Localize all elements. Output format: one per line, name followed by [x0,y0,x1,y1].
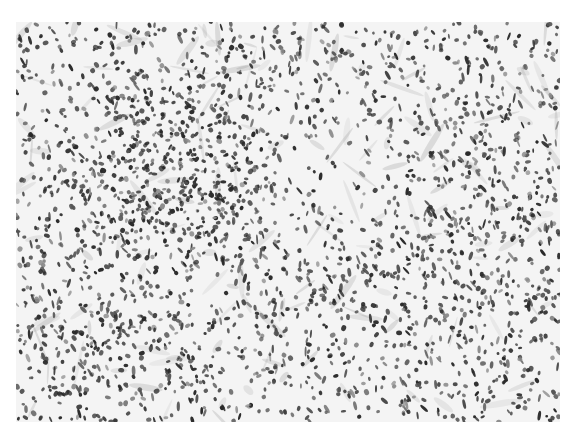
tissue-section [16,22,560,422]
histology-micrograph [16,22,560,422]
